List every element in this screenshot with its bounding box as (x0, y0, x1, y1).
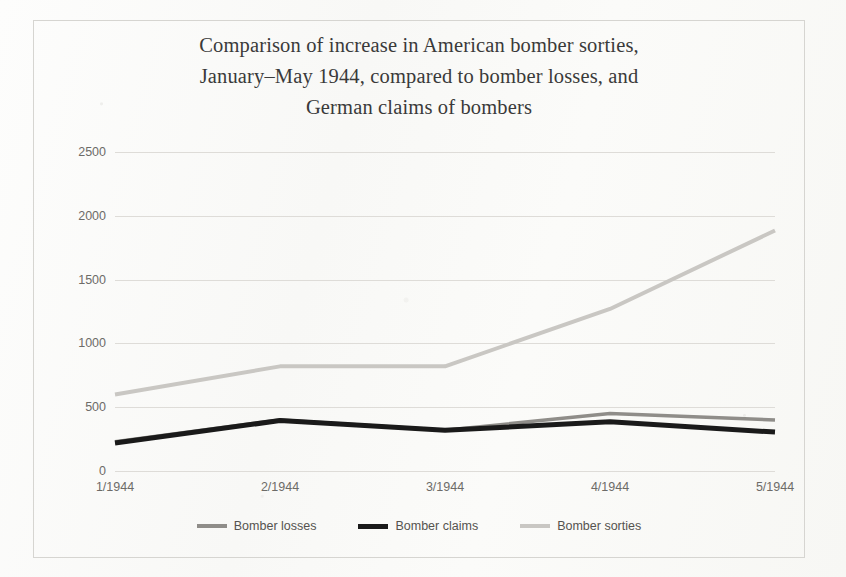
series-line (115, 230, 775, 394)
gridline (115, 471, 775, 472)
y-axis-tick-labels: 05001000150020002500 (40, 152, 106, 471)
legend-color-swatch (197, 524, 227, 528)
x-axis-tick-labels: 1/19442/19443/19444/19445/1944 (115, 480, 775, 500)
x-axis-tick-label: 2/1944 (261, 480, 299, 494)
legend-label: Bomber claims (395, 519, 478, 533)
y-axis-tick-label: 1000 (46, 336, 106, 350)
x-axis-tick-label: 3/1944 (426, 480, 464, 494)
chart-title-line-2: January–May 1944, compared to bomber los… (33, 61, 805, 92)
chart-title: Comparison of increase in American bombe… (33, 30, 805, 123)
y-axis-tick-label: 500 (46, 400, 106, 414)
series-line (115, 421, 775, 443)
y-axis-tick-label: 1500 (46, 273, 106, 287)
legend-item[interactable]: Bomber losses (197, 519, 317, 533)
legend-label: Bomber losses (234, 519, 317, 533)
x-axis-tick-label: 5/1944 (756, 480, 794, 494)
chart-legend: Bomber lossesBomber claimsBomber sorties (33, 519, 805, 533)
chart-title-line-3: German claims of bombers (33, 92, 805, 123)
y-axis-tick-label: 2000 (46, 209, 106, 223)
x-axis-tick-label: 4/1944 (591, 480, 629, 494)
legend-color-swatch (520, 524, 550, 528)
chart-title-line-1: Comparison of increase in American bombe… (33, 30, 805, 61)
y-axis-tick-label: 0 (46, 464, 106, 478)
legend-item[interactable]: Bomber sorties (520, 519, 641, 533)
legend-label: Bomber sorties (557, 519, 641, 533)
series-lines (115, 152, 775, 471)
y-axis-tick-label: 2500 (46, 145, 106, 159)
legend-item[interactable]: Bomber claims (358, 519, 478, 533)
legend-color-swatch (358, 524, 388, 529)
plot-area (115, 152, 775, 471)
x-axis-tick-label: 1/1944 (96, 480, 134, 494)
